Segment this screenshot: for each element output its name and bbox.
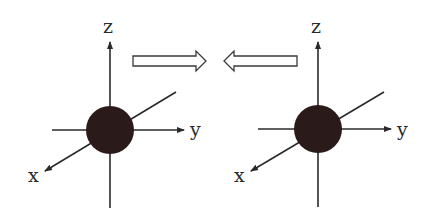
- left-coordinate-system: z y x: [28, 15, 201, 208]
- right-y-label: y: [396, 118, 408, 140]
- right-arrow-icon: [133, 51, 206, 71]
- left-z-label: z: [103, 15, 113, 37]
- right-ball: [294, 105, 342, 153]
- right-x-label: x: [234, 164, 245, 186]
- left-ball: [86, 106, 134, 154]
- coordinate-diagram: z y x z y x: [0, 0, 424, 219]
- right-z-label: z: [311, 15, 321, 37]
- left-x-label: x: [28, 164, 39, 186]
- right-coordinate-system: z y x: [234, 15, 408, 207]
- left-y-label: y: [189, 118, 201, 140]
- left-arrow-icon: [224, 51, 297, 71]
